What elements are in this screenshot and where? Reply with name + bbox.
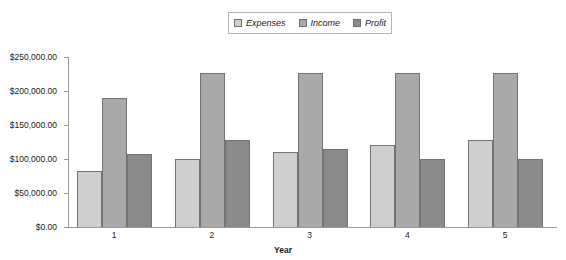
x-tick-cell: 1 [68, 231, 166, 243]
x-tick-cell: 5 [459, 231, 557, 243]
y-tick-label: $250,000.00 [10, 53, 57, 62]
x-tick-cell: 4 [361, 231, 459, 243]
x-tick-cell: 2 [166, 231, 264, 243]
legend-swatch-expenses [234, 19, 242, 27]
bar-income-1[interactable] [102, 98, 127, 227]
x-axis-title: Year [0, 246, 566, 255]
x-axis-line [68, 227, 557, 228]
bar-profit-1[interactable] [127, 154, 152, 227]
bar-expenses-5[interactable] [468, 140, 493, 227]
legend-label-profit: Profit [365, 19, 386, 28]
bar-profit-3[interactable] [323, 149, 348, 227]
x-tick-label: 3 [307, 231, 312, 240]
bar-income-2[interactable] [200, 73, 225, 227]
bar-income-4[interactable] [395, 73, 420, 227]
x-tick-label: 2 [209, 231, 214, 240]
legend-swatch-profit [353, 19, 361, 27]
bar-income-5[interactable] [493, 73, 518, 227]
y-axis-labels: $250,000.00 $200,000.00 $150,000.00 $100… [0, 57, 64, 227]
bar-set [175, 57, 250, 227]
x-tick-label: 5 [503, 231, 508, 240]
x-tick-cell: 3 [264, 231, 362, 243]
legend-item-expenses[interactable]: Expenses [234, 19, 286, 28]
y-axis-tick [64, 227, 68, 228]
bar-set [273, 57, 348, 227]
bar-income-3[interactable] [298, 73, 323, 227]
bar-chart: Expenses Income Profit $250,000.00 $200,… [0, 0, 566, 260]
bar-profit-2[interactable] [225, 140, 250, 227]
legend-label-expenses: Expenses [246, 19, 286, 28]
bar-group-4 [361, 57, 459, 227]
bar-profit-4[interactable] [420, 159, 445, 227]
bar-expenses-1[interactable] [77, 171, 102, 227]
legend-item-profit[interactable]: Profit [353, 19, 386, 28]
bar-expenses-3[interactable] [273, 152, 298, 227]
bar-set [77, 57, 152, 227]
legend-item-income[interactable]: Income [299, 19, 341, 28]
plot-area [68, 57, 557, 227]
y-tick-label: $0.00 [36, 223, 57, 232]
y-tick-label: $200,000.00 [10, 87, 57, 96]
bar-group-5 [459, 57, 557, 227]
y-tick-label: $150,000.00 [10, 121, 57, 130]
bar-group-3 [264, 57, 362, 227]
bar-groups [68, 57, 557, 227]
bar-profit-5[interactable] [518, 159, 543, 227]
bar-expenses-4[interactable] [370, 145, 395, 227]
x-axis-labels: 1 2 3 4 5 [68, 231, 557, 243]
chart-legend: Expenses Income Profit [228, 12, 392, 34]
bar-expenses-2[interactable] [175, 159, 200, 227]
y-tick-label: $50,000.00 [14, 189, 57, 198]
bar-set [370, 57, 445, 227]
legend-label-income: Income [311, 19, 341, 28]
legend-swatch-income [299, 19, 307, 27]
x-tick-label: 1 [112, 231, 117, 240]
bar-group-1 [68, 57, 166, 227]
x-tick-label: 4 [405, 231, 410, 240]
bar-group-2 [166, 57, 264, 227]
bar-set [468, 57, 543, 227]
y-tick-label: $100,000.00 [10, 155, 57, 164]
